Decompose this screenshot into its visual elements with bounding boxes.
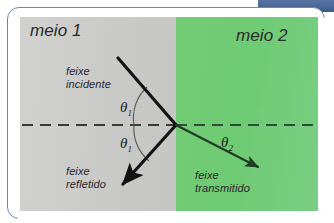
reflected-beam-label: feixe refletido — [66, 165, 106, 191]
theta1-reflected-label: θ1 — [120, 135, 132, 155]
transmitted-beam-label-line1: feixe — [195, 169, 250, 182]
incident-beam-label-line2: incidente — [66, 78, 111, 91]
transmitted-beam — [176, 125, 258, 167]
figure-vectors — [20, 17, 318, 211]
medium-1-label: meio 1 — [30, 21, 82, 41]
reflected-beam-label-line2: refletido — [66, 178, 106, 191]
optics-figure: meio 1 meio 2 feixe incidente feixe refl… — [20, 17, 318, 211]
reflected-beam-label-line1: feixe — [66, 165, 106, 178]
theta1-incident-arc — [133, 87, 147, 125]
theta1-reflected-subscript: 1 — [127, 144, 132, 154]
slide-canvas: meio 1 meio 2 feixe incidente feixe refl… — [0, 0, 334, 223]
medium-2-label: meio 2 — [236, 26, 288, 46]
transmitted-beam-label: feixe transmitido — [195, 169, 250, 195]
transmitted-beam-label-line2: transmitido — [195, 182, 250, 195]
theta2-label: θ2 — [221, 134, 233, 154]
theta1-incident-subscript: 1 — [127, 108, 132, 118]
incident-beam-label: feixe incidente — [66, 65, 111, 91]
incident-beam-label-line1: feixe — [66, 65, 111, 78]
theta2-subscript: 2 — [228, 143, 233, 153]
theta1-incident-label: θ1 — [120, 99, 132, 119]
